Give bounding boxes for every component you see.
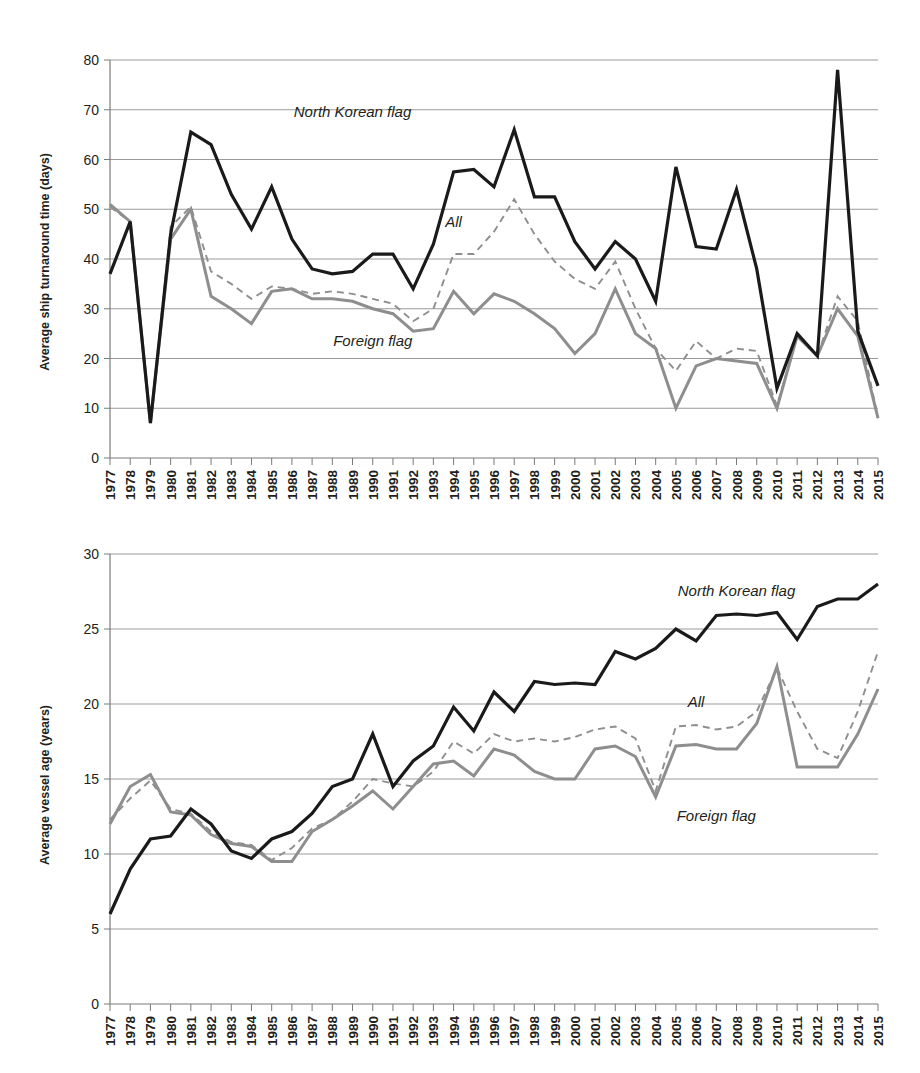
ytick-label: 60: [83, 152, 99, 168]
xtick-label: 1980: [164, 1016, 179, 1046]
xtick-label: 1986: [285, 470, 300, 501]
xtick-label: 1994: [447, 470, 462, 501]
xtick-label: 2001: [588, 1016, 603, 1047]
ytick-label: 20: [83, 351, 99, 367]
xtick-label: 2004: [649, 1016, 664, 1047]
y-axis-title: Average vessel age (years): [38, 705, 52, 865]
xtick-label: 1994: [447, 1016, 462, 1047]
xtick-label: 2007: [709, 1016, 724, 1046]
xtick-label: 1998: [527, 1016, 542, 1047]
xtick-label: 1982: [204, 470, 219, 500]
xtick-label: 1978: [123, 1016, 138, 1047]
xtick-label: 2005: [669, 1016, 684, 1047]
xtick-label: 1977: [103, 470, 118, 500]
xtick-label: 1996: [487, 1016, 502, 1047]
series-annotation: Foreign flag: [333, 332, 413, 349]
xtick-label: 1979: [143, 470, 158, 500]
xtick-label: 1982: [204, 1016, 219, 1046]
chart-svg-top: 0102030405060708019771978197919801981198…: [0, 0, 920, 545]
xtick-label: 2006: [689, 1016, 704, 1047]
series-annotation: North Korean flag: [294, 103, 412, 120]
xtick-label: 2013: [831, 1016, 846, 1047]
xtick-label: 2011: [790, 470, 805, 500]
xtick-label: 2008: [730, 470, 745, 501]
xtick-label: 2014: [851, 1016, 866, 1047]
xtick-label: 1995: [467, 470, 482, 501]
xtick-label: 1992: [406, 470, 421, 500]
ytick-label: 5: [91, 921, 99, 937]
xtick-label: 1999: [548, 1016, 563, 1046]
xtick-label: 2003: [628, 1016, 643, 1047]
xtick-label: 1984: [244, 470, 259, 501]
xtick-label: 1985: [265, 470, 280, 501]
xtick-label: 1998: [527, 470, 542, 501]
xtick-label: 2013: [831, 470, 846, 501]
xtick-label: 2010: [770, 1016, 785, 1046]
xtick-label: 1977: [103, 1016, 118, 1046]
xtick-label: 1983: [224, 470, 239, 501]
ytick-label: 10: [83, 400, 99, 416]
xtick-label: 1993: [426, 1016, 441, 1047]
xtick-label: 1988: [325, 470, 340, 501]
xtick-label: 1991: [386, 470, 401, 501]
xtick-label: 1987: [305, 470, 320, 500]
xtick-label: 2003: [628, 470, 643, 501]
xtick-label: 1985: [265, 1016, 280, 1047]
xtick-label: 1993: [426, 470, 441, 501]
plot-area: 0510152025301977197819791980198119821983…: [38, 546, 886, 1046]
xtick-label: 2008: [730, 1016, 745, 1047]
xtick-label: 1989: [346, 1016, 361, 1046]
series-line-all: [110, 652, 878, 861]
ytick-label: 20: [83, 696, 99, 712]
xtick-label: 2006: [689, 470, 704, 501]
xtick-label: 1990: [366, 470, 381, 500]
xtick-label: 1981: [184, 470, 199, 501]
xtick-label: 2007: [709, 470, 724, 500]
ytick-label: 15: [83, 771, 99, 787]
ytick-label: 0: [91, 450, 99, 466]
xtick-label: 1978: [123, 470, 138, 501]
chart-panel-average-vessel-age: 0510152025301977197819791980198119821983…: [0, 545, 920, 1073]
xtick-label: 1984: [244, 1016, 259, 1047]
xtick-label: 1981: [184, 1016, 199, 1047]
xtick-label: 1996: [487, 470, 502, 501]
xtick-label: 2004: [649, 470, 664, 501]
xtick-label: 2011: [790, 1016, 805, 1046]
xtick-label: 2012: [810, 470, 825, 500]
series-annotation: All: [687, 693, 705, 710]
plot-area: 0102030405060708019771978197919801981198…: [38, 52, 886, 500]
xtick-label: 1989: [346, 470, 361, 500]
ytick-label: 0: [91, 996, 99, 1012]
ytick-label: 30: [83, 301, 99, 317]
xtick-label: 1997: [507, 1016, 522, 1046]
chart-panel-ship-turnaround-time: 0102030405060708019771978197919801981198…: [0, 0, 920, 545]
ytick-label: 10: [83, 846, 99, 862]
series-annotation: Foreign flag: [677, 807, 757, 824]
xtick-label: 1999: [548, 470, 563, 500]
xtick-label: 1979: [143, 1016, 158, 1046]
xtick-label: 1995: [467, 1016, 482, 1047]
xtick-label: 1991: [386, 1016, 401, 1047]
ytick-label: 80: [83, 52, 99, 68]
xtick-label: 2005: [669, 470, 684, 501]
xtick-label: 2009: [750, 1016, 765, 1046]
xtick-label: 1986: [285, 1016, 300, 1047]
xtick-label: 1983: [224, 1016, 239, 1047]
xtick-label: 2015: [871, 1016, 886, 1047]
ytick-label: 40: [83, 251, 99, 267]
series-annotation: All: [444, 213, 462, 230]
xtick-label: 2001: [588, 470, 603, 501]
xtick-label: 1992: [406, 1016, 421, 1046]
xtick-label: 2000: [568, 470, 583, 500]
xtick-label: 2010: [770, 470, 785, 500]
xtick-label: 1990: [366, 1016, 381, 1046]
xtick-label: 2009: [750, 470, 765, 500]
figure-container: 0102030405060708019771978197919801981198…: [0, 0, 920, 1073]
ytick-label: 50: [83, 201, 99, 217]
xtick-label: 2002: [608, 1016, 623, 1046]
series-line-north-korean-flag: [110, 70, 878, 423]
xtick-label: 2014: [851, 470, 866, 501]
xtick-label: 2002: [608, 470, 623, 500]
xtick-label: 2012: [810, 1016, 825, 1046]
xtick-label: 1988: [325, 1016, 340, 1047]
